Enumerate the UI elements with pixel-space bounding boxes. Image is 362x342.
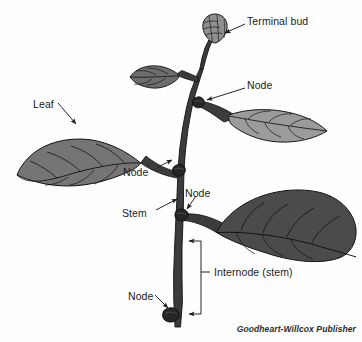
leader-node-upper bbox=[207, 88, 245, 100]
diagram-canvas bbox=[0, 0, 362, 342]
leaf-upper-right bbox=[229, 110, 327, 143]
leaf-upper-right-blade bbox=[229, 110, 327, 143]
internode-bracket bbox=[189, 241, 210, 314]
plant-structure-diagram: Terminal bud Node Leaf Node Node Stem In… bbox=[0, 0, 362, 342]
leader-node-left bbox=[158, 160, 172, 167]
node-bump bbox=[163, 308, 180, 322]
label-leaf: Leaf bbox=[33, 99, 54, 110]
terminal-bud bbox=[203, 14, 227, 43]
upper-left-petiole bbox=[176, 71, 199, 83]
label-stem: Stem bbox=[122, 208, 147, 219]
label-terminal-bud: Terminal bud bbox=[247, 16, 308, 27]
terminal-bud-body bbox=[203, 14, 227, 43]
label-node-upper: Node bbox=[247, 80, 273, 91]
label-node-mid: Node bbox=[185, 188, 211, 199]
label-node-bottom: Node bbox=[128, 291, 154, 302]
leader-terminal-bud bbox=[225, 24, 245, 33]
node-mid-marker bbox=[175, 209, 188, 221]
label-internode: Internode (stem) bbox=[214, 267, 293, 278]
node-upper-marker bbox=[193, 97, 205, 108]
leader-leaf bbox=[58, 103, 76, 124]
leaf-upper-small bbox=[130, 66, 179, 88]
label-node-left: Node bbox=[123, 167, 149, 178]
node-bump bbox=[172, 164, 185, 176]
publisher-credit: Goodheart-Willcox Publisher bbox=[237, 324, 356, 334]
leaf-lower-right bbox=[217, 190, 357, 262]
leaf-left-blade bbox=[17, 139, 141, 186]
leaf-left bbox=[17, 139, 141, 186]
apical-stem-segment bbox=[200, 40, 213, 69]
leader-node-bottom bbox=[155, 295, 168, 308]
node-left-marker bbox=[172, 164, 185, 176]
leader-stem bbox=[156, 199, 177, 210]
node-bottom-marker bbox=[163, 308, 180, 322]
